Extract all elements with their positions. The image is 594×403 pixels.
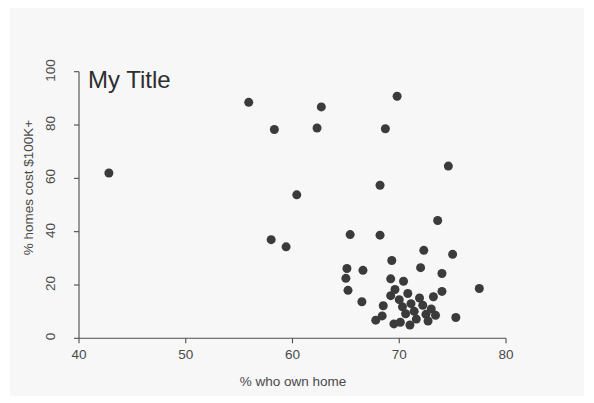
data-point <box>419 246 428 255</box>
data-point <box>405 320 414 329</box>
data-point <box>429 292 438 301</box>
data-point <box>431 311 440 320</box>
data-point <box>390 285 399 294</box>
y-tick-label: 0 <box>43 318 58 356</box>
figure-canvas: My Title % homes cost $100K+ % who own h… <box>0 0 594 403</box>
chart-title: My Title <box>88 66 171 94</box>
x-tick-label: 80 <box>484 347 528 362</box>
data-point <box>376 181 385 190</box>
data-point <box>386 274 395 283</box>
data-point <box>401 309 410 318</box>
series-states <box>104 92 483 330</box>
data-point <box>399 277 408 286</box>
scatter-chart <box>0 0 594 403</box>
data-point <box>475 284 484 293</box>
data-point <box>437 269 446 278</box>
data-point <box>406 299 415 308</box>
data-point <box>403 289 412 298</box>
x-tick-label: 70 <box>377 347 421 362</box>
data-point <box>416 263 425 272</box>
data-point <box>282 242 291 251</box>
x-tick-label: 50 <box>164 347 208 362</box>
data-point <box>244 98 253 107</box>
data-point <box>341 274 350 283</box>
y-tick-label: 20 <box>43 264 58 302</box>
data-point <box>437 287 446 296</box>
x-tick-label: 60 <box>271 347 315 362</box>
data-point <box>371 316 380 325</box>
data-point <box>393 92 402 101</box>
data-point <box>448 250 457 259</box>
y-tick-label: 100 <box>43 51 58 89</box>
data-point <box>346 230 355 239</box>
data-point <box>292 190 301 199</box>
data-point <box>357 297 366 306</box>
data-point <box>387 256 396 265</box>
data-point <box>444 162 453 171</box>
data-point <box>418 301 427 310</box>
data-point <box>424 316 433 325</box>
data-point <box>317 102 326 111</box>
y-tick-label: 40 <box>43 211 58 249</box>
data-point <box>313 123 322 132</box>
y-tick-label: 80 <box>43 105 58 143</box>
data-point <box>358 266 367 275</box>
y-tick-label: 60 <box>43 158 58 196</box>
data-point <box>451 313 460 322</box>
data-point <box>267 235 276 244</box>
data-point <box>344 286 353 295</box>
data-point <box>389 319 398 328</box>
data-point <box>376 231 385 240</box>
y-axis-label: % homes cost $100K+ <box>21 98 36 278</box>
data-point <box>433 216 442 225</box>
x-axis-label: % who own home <box>79 374 507 389</box>
x-tick-label: 40 <box>57 347 101 362</box>
data-point <box>379 301 388 310</box>
data-point <box>342 264 351 273</box>
data-point <box>104 169 113 178</box>
data-point <box>381 124 390 133</box>
plot-area: My Title % homes cost $100K+ % who own h… <box>0 0 594 403</box>
data-point <box>410 307 419 316</box>
data-point <box>270 125 279 134</box>
